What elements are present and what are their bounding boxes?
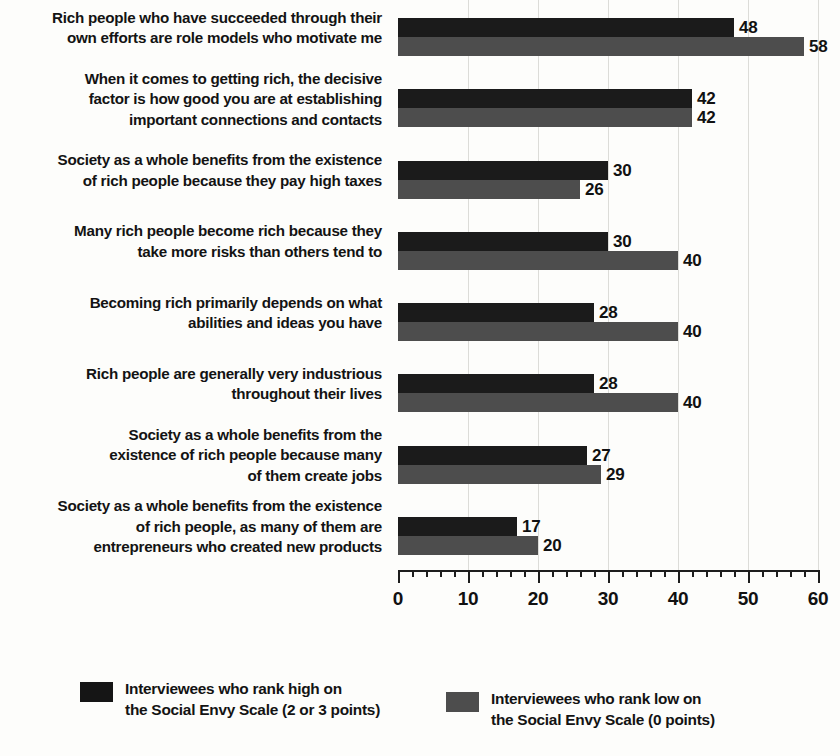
bar-value-label: 58 <box>809 37 828 56</box>
bar-group: 3040 <box>398 214 818 285</box>
axis-tick-34 <box>636 570 638 577</box>
axis-tick-6 <box>440 570 442 577</box>
bar-group: 2729 <box>398 428 818 499</box>
axis-tick-24 <box>566 570 568 577</box>
bar-rect-low <box>398 536 538 555</box>
legend-swatch-low <box>446 692 479 712</box>
bar-rect-high <box>398 517 517 536</box>
bar-rect-low <box>398 393 678 412</box>
category-label: When it comes to getting rich, the decis… <box>0 69 390 131</box>
axis-tick-30 <box>608 570 610 583</box>
bar-value-label: 27 <box>592 446 611 465</box>
bar-group: 1720 <box>398 499 818 570</box>
axis-tick-16 <box>510 570 512 577</box>
axis-tick-0 <box>398 570 400 583</box>
legend-label: Interviewees who rank low on the Social … <box>491 688 715 730</box>
chart-legend: Interviewees who rank high on the Social… <box>0 660 840 756</box>
category-label: Many rich people become rich because the… <box>0 221 390 262</box>
bar-high: 27 <box>398 446 611 465</box>
bar-low: 40 <box>398 393 702 412</box>
axis-tick-12 <box>482 570 484 577</box>
bar-rect-low <box>398 251 678 270</box>
category-label: Becoming rich primarily depends on what … <box>0 293 390 334</box>
horizontal-bar-chart: Rich people who have succeeded through t… <box>0 0 840 756</box>
x-axis <box>398 570 818 584</box>
bar-rect-high <box>398 374 594 393</box>
bar-rect-low <box>398 37 804 56</box>
axis-tick-label-30: 30 <box>598 588 619 610</box>
bar-group: 4858 <box>398 0 818 71</box>
axis-tick-36 <box>650 570 652 577</box>
axis-tick-28 <box>594 570 596 577</box>
bar-rect-low <box>398 108 692 127</box>
axis-tick-42 <box>692 570 694 577</box>
category-label-column: Rich people who have succeeded through t… <box>0 0 390 570</box>
bar-high: 17 <box>398 517 541 536</box>
bar-value-label: 30 <box>613 232 632 251</box>
axis-tick-label-60: 60 <box>808 588 829 610</box>
bar-value-label: 42 <box>697 89 716 108</box>
legend-item: Interviewees who rank low on the Social … <box>446 688 715 730</box>
bar-rect-high <box>398 18 734 37</box>
axis-tick-18 <box>524 570 526 577</box>
bar-value-label: 28 <box>599 303 618 322</box>
axis-tick-8 <box>454 570 456 577</box>
axis-tick-54 <box>776 570 778 577</box>
category-label: Society as a whole benefits from the exi… <box>0 150 390 191</box>
bar-low: 20 <box>398 536 562 555</box>
bar-value-label: 20 <box>543 536 562 555</box>
legend-swatch-high <box>80 682 113 702</box>
bar-group: 2840 <box>398 285 818 356</box>
bar-rect-low <box>398 465 601 484</box>
bar-low: 58 <box>398 37 828 56</box>
bar-high: 42 <box>398 89 716 108</box>
bar-rows: 48584242302630402840284027291720 <box>398 0 818 570</box>
bar-rect-low <box>398 180 580 199</box>
legend-item: Interviewees who rank high on the Social… <box>80 678 380 720</box>
bar-low: 40 <box>398 322 702 341</box>
bar-value-label: 48 <box>739 18 758 37</box>
axis-tick-14 <box>496 570 498 577</box>
bar-group: 2840 <box>398 356 818 427</box>
bar-value-label: 28 <box>599 374 618 393</box>
axis-tick-40 <box>678 570 680 583</box>
axis-tick-10 <box>468 570 470 583</box>
bar-value-label: 40 <box>683 322 702 341</box>
axis-tick-22 <box>552 570 554 577</box>
bar-high: 48 <box>398 18 758 37</box>
axis-tick-label-50: 50 <box>738 588 759 610</box>
bar-value-label: 26 <box>585 180 604 199</box>
bar-low: 42 <box>398 108 716 127</box>
axis-tick-56 <box>790 570 792 577</box>
bar-low: 40 <box>398 251 702 270</box>
bar-low: 29 <box>398 465 625 484</box>
bar-high: 28 <box>398 374 618 393</box>
axis-tick-label-10: 10 <box>458 588 479 610</box>
axis-tick-52 <box>762 570 764 577</box>
axis-tick-48 <box>734 570 736 577</box>
axis-tick-2 <box>412 570 414 577</box>
axis-tick-38 <box>664 570 666 577</box>
bar-value-label: 29 <box>606 465 625 484</box>
bar-high: 28 <box>398 303 618 322</box>
bar-rect-low <box>398 322 678 341</box>
axis-tick-44 <box>706 570 708 577</box>
axis-tick-32 <box>622 570 624 577</box>
category-label: Society as a whole benefits from the exi… <box>0 496 390 558</box>
bar-high: 30 <box>398 161 632 180</box>
axis-tick-60 <box>818 570 820 583</box>
bar-group: 3026 <box>398 143 818 214</box>
plot-area: 48584242302630402840284027291720 <box>398 0 818 570</box>
bar-value-label: 30 <box>613 161 632 180</box>
category-label: Rich people are generally very industrio… <box>0 364 390 405</box>
axis-tick-58 <box>804 570 806 577</box>
bar-rect-high <box>398 161 608 180</box>
axis-tick-20 <box>538 570 540 583</box>
category-label: Society as a whole benefits from the exi… <box>0 425 390 487</box>
bar-high: 30 <box>398 232 632 251</box>
bar-rect-high <box>398 303 594 322</box>
bar-rect-high <box>398 232 608 251</box>
bar-rect-high <box>398 446 587 465</box>
bar-group: 4242 <box>398 71 818 142</box>
bar-low: 26 <box>398 180 604 199</box>
